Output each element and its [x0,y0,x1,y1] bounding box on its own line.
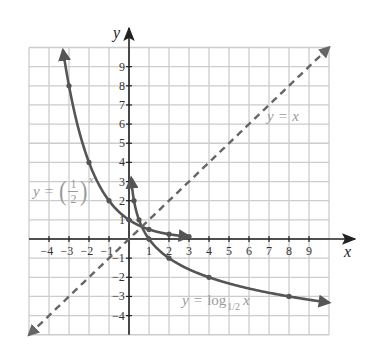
data-point [146,236,151,241]
data-point [106,198,111,203]
identity-rhs: x [292,109,299,124]
exponential-lhs: y [33,184,40,199]
data-point [129,179,134,184]
log-base: 1/2 [227,302,240,312]
fraction-numerator: 1 [68,178,78,192]
log_half-curve [131,178,329,303]
data-point [146,227,151,232]
identity-line-label: y = x [267,109,299,124]
log-function: log [207,293,226,308]
y-tick-label: −2 [112,271,125,283]
x-tick-label: −3 [61,245,74,257]
fraction-denominator: 2 [70,192,76,205]
x-tick-label: 2 [166,245,172,257]
y-tick-label: −4 [112,310,125,322]
data-point [186,234,191,239]
identity-lhs: y [267,109,274,124]
log-lhs: y [182,293,189,308]
data-point [166,232,171,237]
y-tick-label: 5 [119,137,125,149]
y-tick-label: −3 [112,290,125,302]
y-tick-label: 4 [119,156,125,168]
x-axis-label: x [344,244,351,260]
log-equals: = [194,293,202,308]
x-tick-label: 3 [186,245,192,257]
data-point [86,160,91,165]
y-tick-label: 9 [119,61,125,73]
data-point [126,217,131,222]
y-tick-label: 1 [119,214,125,226]
x-tick-label: 8 [286,245,292,257]
y-tick-label: 2 [119,195,125,207]
x-tick-label: 7 [266,245,272,257]
x-tick-label: 1 [146,245,152,257]
data-point [206,275,211,280]
exponential-curve-label: y = ( 1 2 ) x [33,176,94,206]
fraction-one-half: 1 2 [68,178,78,205]
y-tick-label: −1 [112,252,125,264]
open-paren: ( [59,177,66,205]
exponent: x [89,174,94,185]
identity-equals: = [279,109,287,124]
logarithm-curve-label: y = log 1/2 x [182,293,250,308]
x-tick-label: −2 [81,245,94,257]
y-tick-label: 7 [119,99,125,111]
function-graph: −4−3−2−1123456789−4−3−2−1123456789 y x y… [0,0,367,348]
y-tick-label: 3 [119,176,125,188]
x-tick-label: 6 [246,245,252,257]
data-point [136,217,141,222]
y-tick-label: 8 [119,80,125,92]
x-tick-label: 4 [206,245,212,257]
log-argument: x [243,293,250,308]
x-tick-label: 9 [306,245,312,257]
data-point [131,198,136,203]
y-tick-label: 6 [119,118,125,130]
y-axis-label: y [113,25,120,41]
x-tick-label: 5 [226,245,232,257]
exponential-equals: = [45,184,53,199]
data-point [66,83,71,88]
data-point [286,294,291,299]
x-tick-label: −4 [41,245,54,257]
close-paren: ) [80,177,87,205]
